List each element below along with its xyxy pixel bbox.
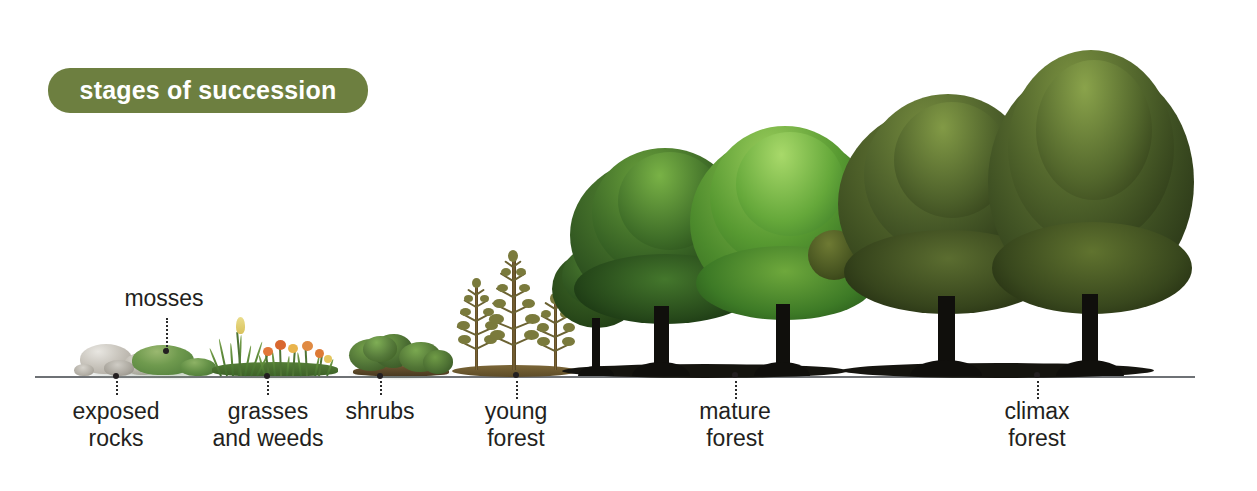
sapling-foliage: [464, 295, 473, 302]
leader-dot-climax-forest: [1034, 372, 1040, 378]
stage-label-young-forest: young forest: [452, 398, 580, 452]
flower-stem: [292, 351, 295, 376]
flower-yellow: [324, 355, 332, 363]
stage-art-shrubs: [347, 320, 455, 376]
stage-label-mosses: mosses: [94, 285, 234, 312]
leader-dot-mature-forest: [732, 372, 738, 378]
sapling-foliage: [501, 268, 511, 276]
leader-dot-exposed-rocks: [113, 373, 119, 379]
tree-root-flare: [754, 362, 810, 376]
sapling-foliage: [457, 321, 470, 330]
grass-blade: [297, 352, 303, 376]
leader-line-exposed-rocks: [116, 381, 118, 395]
leader-line-grasses-and-weeds: [267, 381, 269, 395]
sapling-foliage: [458, 335, 471, 344]
sapling-foliage: [537, 337, 550, 346]
tree-climax-right: [988, 16, 1203, 376]
stage-art-climax-forest: [838, 16, 1158, 376]
seedhead-yellow: [236, 317, 245, 334]
grass-clump-flowers: [260, 336, 338, 376]
leader-dot-young-forest: [513, 372, 519, 378]
title-badge-label: stages of succession: [80, 76, 337, 105]
tree-root-flare: [910, 360, 982, 376]
sapling-foliage: [489, 314, 504, 324]
tree-root-flare: [1056, 360, 1124, 376]
leader-dot-mosses: [163, 348, 169, 354]
grass-blade: [286, 356, 290, 376]
sapling-foliage: [493, 299, 506, 308]
shrub-blob: [363, 336, 397, 362]
stage-art-mature-forest: [552, 106, 852, 376]
flower-orange: [275, 340, 286, 350]
flower-orange: [263, 347, 273, 356]
leader-line-mature-forest: [735, 381, 737, 399]
stage-label-exposed-rocks: exposed rocks: [41, 398, 191, 452]
sapling-foliage: [508, 250, 518, 262]
stage-art-mosses: [128, 340, 220, 376]
grass-blade: [230, 343, 235, 376]
leader-dot-shrubs: [377, 373, 383, 379]
rock-small-left: [74, 364, 94, 376]
sapling-foliage: [516, 268, 526, 276]
sapling-foliage: [537, 323, 549, 332]
title-badge: stages of succession: [48, 68, 368, 113]
tree-canopy: [1036, 60, 1152, 200]
succession-diagram: stages of succession exposed rocks mosse…: [0, 0, 1257, 491]
leader-line-young-forest: [516, 381, 518, 399]
sapling-foliage: [460, 308, 471, 316]
sapling-foliage: [490, 330, 505, 340]
leader-line-climax-forest: [1037, 381, 1039, 399]
flower-yellow: [288, 344, 298, 353]
leader-line-shrubs: [380, 381, 382, 395]
tree-root-flare: [632, 362, 690, 376]
sapling-foliage: [541, 310, 551, 318]
flower-orange: [302, 341, 313, 351]
shrub-blob: [423, 350, 453, 374]
sapling-foliage: [497, 284, 508, 292]
tree-canopy: [736, 132, 844, 236]
stage-art-grasses-and-weeds: [210, 314, 340, 376]
stage-label-climax-forest: climax forest: [973, 398, 1101, 452]
sapling-foliage: [472, 278, 481, 288]
flower-stem: [305, 349, 308, 376]
leader-dot-grasses-and-weeds: [264, 373, 270, 379]
stage-label-shrubs: shrubs: [318, 398, 442, 425]
flower-orange: [315, 349, 324, 358]
leader-line-mosses: [166, 318, 168, 350]
flower-stem: [279, 348, 282, 376]
sapling-foliage: [519, 284, 530, 292]
stage-label-mature-forest: mature forest: [671, 398, 799, 452]
